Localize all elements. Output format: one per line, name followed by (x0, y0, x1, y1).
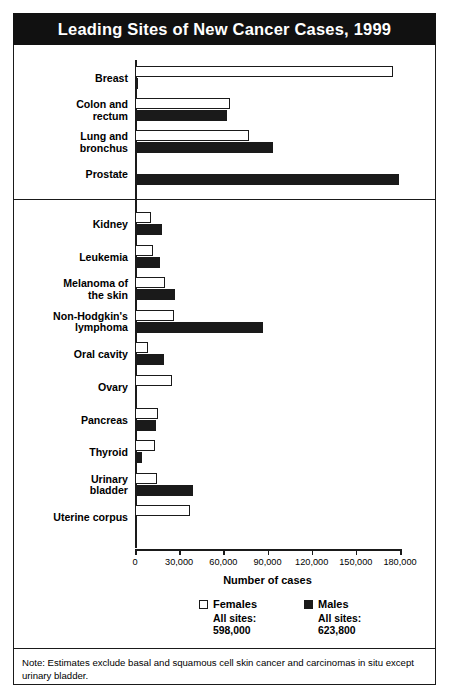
x-tick (179, 549, 181, 555)
legend-label-males: Males (318, 598, 349, 610)
table-row: Leukemia (14, 245, 435, 277)
table-row: Ovary (14, 375, 435, 407)
bar-female (135, 342, 148, 353)
bar-female (135, 473, 157, 484)
bar-male (135, 322, 263, 333)
bar-male (135, 142, 273, 153)
bar-female (135, 505, 190, 516)
bar-male (135, 224, 162, 235)
table-row: Uterine corpus (14, 505, 435, 537)
bar-female (135, 130, 249, 141)
table-row: Melanoma ofthe skin (14, 277, 435, 309)
category-label: Oral cavity (14, 349, 135, 361)
bar-male (135, 354, 164, 365)
x-axis-title: Number of cases (135, 574, 400, 586)
category-label: Thyroid (14, 447, 135, 459)
bar-female (135, 277, 165, 288)
x-tick-label: 120,000 (295, 557, 328, 567)
bar-female (135, 440, 155, 451)
bar-male (135, 174, 399, 185)
table-row: Breast (14, 66, 435, 98)
category-label: Lung andbronchus (14, 131, 135, 154)
bar-female (135, 98, 230, 109)
bar-male (135, 257, 160, 268)
bar-female (135, 375, 172, 386)
page-title: Leading Sites of New Cancer Cases, 1999 (13, 13, 436, 45)
table-row: Pancreas (14, 408, 435, 440)
category-label: Leukemia (14, 252, 135, 264)
table-row: Oral cavity (14, 342, 435, 374)
table-row: Kidney (14, 212, 435, 244)
bar-female (135, 66, 393, 77)
x-tick-label: 90,000 (253, 557, 281, 567)
bar-male (135, 78, 138, 89)
bar-male (135, 420, 156, 431)
x-tick (223, 549, 225, 555)
table-row: Prostate (14, 162, 435, 194)
bar-male (135, 452, 142, 463)
category-label: Urinarybladder (14, 474, 135, 497)
category-label: Uterine corpus (14, 512, 135, 524)
category-label: Prostate (14, 169, 135, 181)
x-tick (135, 549, 137, 555)
legend-all-sites-value-males: 623,800 (318, 625, 356, 637)
x-tick (312, 549, 314, 555)
bar-male (135, 110, 227, 121)
table-row: Urinarybladder (14, 473, 435, 505)
x-tick-label: 150,000 (339, 557, 372, 567)
legend-swatch-male-icon (304, 600, 313, 609)
table-row: Non-Hodgkin'slymphoma (14, 310, 435, 342)
legend-all-sites-label-males: All sites: (318, 613, 361, 625)
x-tick-label: 60,000 (209, 557, 237, 567)
table-row: Thyroid (14, 440, 435, 472)
x-tick-label: 180,000 (383, 557, 416, 567)
category-label: Breast (14, 73, 135, 85)
bar-male (135, 289, 175, 300)
bar-female (135, 245, 153, 256)
x-tick-label: 0 (132, 557, 137, 567)
legend: Females All sites: 598,000 Males All sit… (14, 598, 435, 644)
category-label: Kidney (14, 219, 135, 231)
title-bar: Leading Sites of New Cancer Cases, 1999 (13, 13, 436, 45)
legend-label-females: Females (213, 598, 257, 610)
bar-male (135, 485, 193, 496)
legend-all-sites-label-females: All sites: (213, 613, 256, 625)
table-row: Colon andrectum (14, 98, 435, 130)
x-tick (268, 549, 270, 555)
chart-page: Leading Sites of New Cancer Cases, 1999 … (0, 0, 449, 698)
x-tick-label: 30,000 (165, 557, 193, 567)
bar-female (135, 310, 174, 321)
legend-all-sites-value-females: 598,000 (213, 625, 251, 637)
bar-female (135, 408, 158, 419)
bar-female (135, 212, 151, 223)
category-label: Melanoma ofthe skin (14, 278, 135, 301)
table-row: Lung andbronchus (14, 130, 435, 162)
category-label: Pancreas (14, 415, 135, 427)
x-tick (400, 549, 402, 555)
footnote: Note: Estimates exclude basal and squamo… (22, 657, 427, 682)
legend-swatch-female-icon (199, 600, 208, 609)
category-label: Non-Hodgkin'slymphoma (14, 311, 135, 334)
category-label: Colon andrectum (14, 99, 135, 122)
x-tick (356, 549, 358, 555)
category-label: Ovary (14, 382, 135, 394)
